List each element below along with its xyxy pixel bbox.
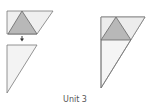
figure-caption: Unit 3	[0, 95, 150, 104]
right-composite-triangle	[101, 17, 145, 88]
left-cut-triangle	[7, 45, 37, 93]
down-arrow-icon	[20, 36, 24, 42]
left-parallelogram	[7, 11, 53, 34]
